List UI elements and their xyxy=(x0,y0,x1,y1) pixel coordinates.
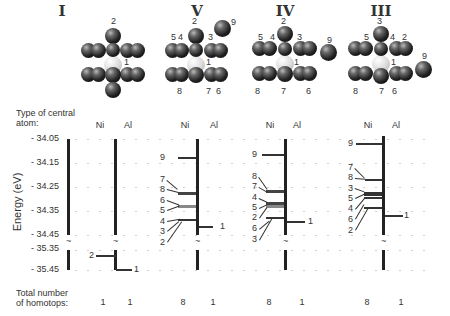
level-label: 6 xyxy=(348,214,353,224)
gridline xyxy=(70,187,430,188)
level-label: 1 xyxy=(220,221,225,231)
level-label: 4 xyxy=(348,203,353,213)
panel-III-bar-upper xyxy=(382,136,385,235)
y-axis-label: Energy (eV) xyxy=(11,167,23,237)
energy-level-IV-7-8 xyxy=(266,190,284,193)
central-atom-row-label: Type of central atom: xyxy=(16,108,75,128)
energy-level-V-9 xyxy=(178,157,196,159)
y-axis-upper xyxy=(67,139,70,235)
y-tick: - 34.45 xyxy=(19,229,59,239)
level-label: 3 xyxy=(160,226,165,236)
level-label: 6 xyxy=(160,195,165,205)
level-label: 5 xyxy=(160,205,165,215)
leader-line xyxy=(355,188,365,192)
level-label: 9 xyxy=(252,149,257,159)
y-tick: - 34.25 xyxy=(19,181,59,191)
axis-break-mark: ~ xyxy=(195,236,200,246)
col-header-al-IV: Al xyxy=(293,120,301,130)
level-label: 3 xyxy=(348,183,353,193)
total-I-ni: 1 xyxy=(100,297,105,307)
axis-break-mark: ~ xyxy=(381,236,386,246)
level-label: 2 xyxy=(160,237,165,247)
y-axis-lower xyxy=(67,250,70,270)
energy-level-III-9 xyxy=(356,143,382,145)
atom-label: 3 xyxy=(377,16,382,26)
axis-break-mark: ~ xyxy=(66,236,71,246)
level-label: 3 xyxy=(252,234,257,244)
leader-line xyxy=(259,198,268,203)
energy-level-V-7-8 xyxy=(178,192,196,195)
level-label: 2 xyxy=(89,250,94,260)
y-tick: - 34.05 xyxy=(19,133,59,143)
level-label: 9 xyxy=(348,138,353,148)
level-label: 7 xyxy=(348,162,353,172)
panel-I-al-bar-upper xyxy=(114,139,117,235)
panel-IV-bar-lower xyxy=(284,250,287,270)
level-label: 4 xyxy=(252,192,257,202)
total-III-al: 1 xyxy=(398,297,403,307)
level-label: 5 xyxy=(252,202,257,212)
level-label: 8 xyxy=(348,172,353,182)
energy-level-III-5 xyxy=(364,194,382,196)
level-label: 6 xyxy=(252,223,257,233)
y-tick: - 35.45 xyxy=(19,264,59,274)
total-III-ni: 8 xyxy=(364,297,369,307)
energy-level-IV-9 xyxy=(262,154,284,156)
label-line: Total number xyxy=(16,288,68,298)
level-label: 1 xyxy=(134,264,139,274)
level-label: 5 xyxy=(348,193,353,203)
col-header-ni-IV: Ni xyxy=(266,120,275,130)
level-label: 7 xyxy=(160,174,165,184)
total-V-ni: 8 xyxy=(180,297,185,307)
energy-level-IV-3-6 xyxy=(266,217,284,219)
level-label: 2 xyxy=(348,225,353,235)
energy-level-V-5-6 xyxy=(178,205,196,208)
gridline xyxy=(70,235,430,236)
atom-label: 9 xyxy=(422,51,427,61)
panel-V-bar-upper xyxy=(196,139,199,235)
gridline xyxy=(70,250,430,251)
panel-III-bar-lower xyxy=(382,250,385,270)
energy-level-V-1 xyxy=(199,226,213,228)
axis-break-mark: ~ xyxy=(113,236,118,246)
y-tick: - 34.15 xyxy=(19,157,59,167)
gridline xyxy=(70,139,430,140)
leader-line xyxy=(167,200,180,205)
energy-level-IV-1 xyxy=(287,221,305,223)
panel-V-bar-lower xyxy=(196,250,199,270)
level-label: 1 xyxy=(404,210,409,220)
level-label: 7 xyxy=(252,181,257,191)
col-header-al-III: Al xyxy=(392,120,400,130)
gridline xyxy=(70,163,430,164)
axis-break-mark: ~ xyxy=(283,236,288,246)
col-header-al-V: Al xyxy=(210,120,218,130)
level-label: 2 xyxy=(252,212,257,222)
energy-level-IV-2 xyxy=(266,205,284,208)
col-header-ni-V: Ni xyxy=(181,120,190,130)
gridline xyxy=(70,211,430,212)
level-label: 8 xyxy=(252,171,257,181)
energy-level-III-1 xyxy=(385,215,403,217)
level-label: 1 xyxy=(308,216,313,226)
atom-label: 6 xyxy=(392,86,397,96)
level-label: 9 xyxy=(160,152,165,162)
energy-level-I-2 xyxy=(96,255,116,257)
total-IV-al: 1 xyxy=(299,297,304,307)
panel-I-al-bar-lower xyxy=(114,250,117,270)
atom-label: 7 xyxy=(379,86,384,96)
leader-line xyxy=(354,168,365,179)
col-header-ni-III: Ni xyxy=(364,120,373,130)
y-tick: - 34.35 xyxy=(19,205,59,215)
label-line: of homotops: xyxy=(16,298,68,308)
energy-level-I-1 xyxy=(116,269,132,271)
energy-level-III-4 xyxy=(364,197,382,199)
atom-label: 8 xyxy=(353,86,358,96)
label-line: atom: xyxy=(16,118,75,128)
col-header-ni-I: Ni xyxy=(96,120,105,130)
energy-level-III-7-8 xyxy=(365,179,382,181)
total-IV-ni: 8 xyxy=(266,297,271,307)
cluster-structure-III: 3 5 4 2 1 8 7 6 9 xyxy=(0,0,450,100)
total-homotops-row-label: Total number of homotops: xyxy=(16,288,68,308)
leader-line xyxy=(355,178,365,180)
level-label: 8 xyxy=(160,184,165,194)
